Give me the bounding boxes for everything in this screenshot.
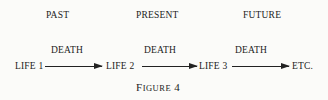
figure-caption: FIGURE 4 bbox=[136, 81, 180, 93]
era-future: FUTURE bbox=[243, 10, 281, 20]
era-present: PRESENT bbox=[136, 10, 179, 20]
stage-life-2: LIFE 2 bbox=[106, 61, 134, 71]
stage-life-1: LIFE 1 bbox=[15, 61, 43, 71]
death-label-1: DEATH bbox=[51, 45, 83, 55]
arrow-1 bbox=[45, 66, 102, 67]
arrow-2 bbox=[142, 66, 197, 67]
stage-etc: ETC. bbox=[292, 61, 313, 71]
era-past: PAST bbox=[46, 10, 69, 20]
caption-rest: IGURE bbox=[143, 83, 171, 93]
caption-initial: F bbox=[136, 81, 143, 93]
caption-number: 4 bbox=[174, 81, 180, 93]
death-label-2: DEATH bbox=[144, 45, 176, 55]
death-label-3: DEATH bbox=[235, 45, 267, 55]
arrow-3 bbox=[232, 66, 289, 67]
stage-life-3: LIFE 3 bbox=[199, 61, 227, 71]
